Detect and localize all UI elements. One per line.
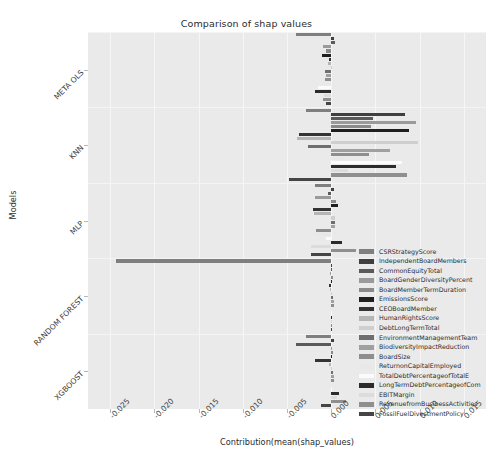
bar	[321, 404, 332, 407]
bar	[315, 196, 331, 199]
legend-item[interactable]: HumanRightsScore	[359, 314, 491, 324]
bar	[331, 396, 336, 399]
legend-item[interactable]: LongTermDebtPercentageofCom	[359, 381, 491, 391]
gridline-horizontal	[88, 183, 486, 184]
bar	[326, 237, 331, 240]
bar	[331, 125, 371, 128]
legend-swatch	[359, 269, 374, 274]
legend-item[interactable]: BiodiversityImpactReduction	[359, 342, 491, 352]
y-tick-label: MLP	[21, 219, 85, 283]
legend-label: IndependentBoardMembers	[379, 258, 467, 264]
gridline-horizontal	[88, 107, 486, 108]
bar	[331, 161, 401, 164]
legend-swatch	[359, 249, 374, 254]
bar	[306, 109, 331, 112]
bar	[306, 335, 331, 338]
bar	[328, 62, 332, 65]
bar	[297, 137, 331, 140]
legend-item[interactable]: BoardSize	[359, 352, 491, 362]
legend-item[interactable]: DebtLongTermTotal	[359, 323, 491, 333]
legend-item[interactable]: BoardMemberTermDuration	[359, 285, 491, 295]
legend-swatch	[359, 364, 374, 369]
y-tick-label: META OLS	[21, 68, 85, 132]
legend-item[interactable]: FossilFuelDivestmentPolicy	[359, 409, 491, 419]
legend-item[interactable]: TotalDebtPercentageofTotalE	[359, 371, 491, 381]
bar	[326, 49, 331, 52]
legend-label: BiodiversityImpactReduction	[379, 344, 469, 350]
legend-label: DebtLongTermTotal	[379, 325, 439, 331]
legend-item[interactable]: CommonEquityTotal	[359, 266, 491, 276]
legend-label: BoardSize	[379, 354, 410, 360]
legend-item[interactable]: CEOBoardMember	[359, 304, 491, 314]
legend-swatch	[359, 278, 374, 283]
bar	[314, 212, 332, 215]
legend-swatch	[359, 297, 374, 302]
bar	[331, 383, 332, 386]
legend-swatch	[359, 288, 374, 293]
bar	[331, 188, 334, 191]
bar	[331, 355, 332, 358]
bar	[331, 300, 333, 303]
bar	[325, 70, 332, 73]
bar	[331, 304, 334, 307]
y-tick-mark	[84, 371, 88, 372]
bar	[318, 86, 331, 89]
bar	[308, 145, 331, 148]
bar	[329, 58, 331, 61]
bar	[322, 54, 331, 57]
bar	[331, 141, 418, 144]
bar	[315, 90, 331, 93]
bar	[331, 149, 390, 152]
legend-label: EBITMargin	[379, 392, 415, 398]
gridline-vertical	[287, 32, 288, 409]
legend-item[interactable]: IndependentBoardMembers	[359, 257, 491, 267]
gridline-vertical	[110, 32, 111, 409]
bar	[311, 253, 331, 256]
bar	[331, 225, 335, 228]
bar	[331, 312, 332, 315]
bar	[296, 33, 331, 36]
legend-swatch	[359, 335, 374, 340]
legend-label: BoardGenderDiversityPercent	[379, 277, 472, 283]
legend-item[interactable]: BoardGenderDiversityPercent	[359, 276, 491, 286]
y-tick-mark	[84, 145, 88, 146]
bar	[323, 98, 331, 101]
bar	[330, 288, 331, 291]
legend-label: TotalDebtPercentageofTotalE	[379, 373, 469, 379]
bar	[331, 157, 343, 160]
bar	[323, 45, 331, 48]
bar	[331, 173, 407, 176]
legend-swatch	[359, 345, 374, 350]
bar	[324, 94, 331, 97]
legend-label: EnvironmentManagementTeam	[379, 335, 477, 341]
legend-item[interactable]: RevenuefromBusinessActivities	[359, 400, 491, 410]
bar	[331, 169, 348, 172]
gridline-vertical	[154, 32, 155, 409]
y-tick-label: RANDOM FOREST	[21, 294, 85, 358]
bar	[330, 272, 331, 275]
legend-item[interactable]: EnvironmentManagementTeam	[359, 333, 491, 343]
bar	[325, 78, 331, 81]
legend-swatch	[359, 412, 374, 417]
legend-label: CSRStrategyScore	[379, 249, 436, 255]
y-tick-mark	[84, 70, 88, 71]
bar	[331, 129, 409, 132]
bar	[331, 392, 339, 395]
bar	[296, 343, 331, 346]
y-tick-mark	[84, 296, 88, 297]
legend-item[interactable]: CSRStrategyScore	[359, 247, 491, 257]
legend-item[interactable]: ReturnonCapitalEmployed	[359, 362, 491, 372]
bar	[331, 367, 332, 370]
legend-item[interactable]: EBITMargin	[359, 390, 491, 400]
bar	[331, 117, 373, 120]
bar	[331, 328, 332, 331]
legend-label: CommonEquityTotal	[379, 268, 442, 274]
legend-swatch	[359, 383, 374, 388]
bar	[331, 296, 333, 299]
bar	[331, 308, 332, 311]
bar	[326, 74, 331, 77]
legend-label: RevenuefromBusinessActivities	[379, 401, 478, 407]
legend-swatch	[359, 393, 374, 398]
bar	[331, 347, 332, 350]
legend-item[interactable]: EmissionsScore	[359, 295, 491, 305]
